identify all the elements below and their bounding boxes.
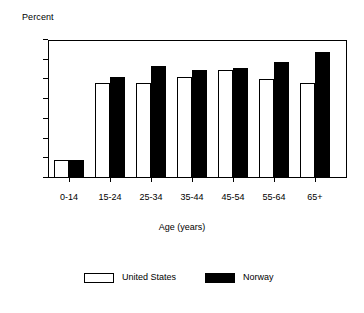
bar-norway-15-24	[110, 77, 125, 178]
bar-norway-25-34	[151, 66, 166, 178]
x-tick-label: 65+	[307, 192, 322, 203]
x-axis-title: Age (years)	[0, 222, 364, 233]
bar-norway-35-44	[192, 70, 207, 178]
bar-norway-65plus	[315, 52, 330, 178]
legend-entry-united-states: United States	[84, 272, 176, 283]
x-tick-mark	[151, 178, 152, 182]
chart-legend: United States Norway	[0, 272, 364, 292]
x-tick-label: 35-44	[180, 192, 203, 203]
legend-label-norway: Norway	[243, 272, 274, 283]
x-tick-label: 25-34	[139, 192, 162, 203]
x-tick-mark	[110, 178, 111, 182]
bar-norway-0-14	[69, 160, 84, 178]
x-tick-mark	[69, 178, 70, 182]
x-tick-mark	[192, 178, 193, 182]
x-tick-label: 15-24	[98, 192, 121, 203]
x-tick-mark	[233, 178, 234, 182]
bar-united-states-45-54	[218, 70, 233, 178]
legend-entry-norway: Norway	[205, 272, 274, 283]
bar-united-states-25-34	[136, 83, 151, 178]
bar-united-states-0-14	[54, 160, 69, 178]
bar-united-states-65plus	[300, 83, 315, 178]
x-tick-mark	[274, 178, 275, 182]
bar-united-states-55-64	[259, 79, 274, 178]
legend-label-united-states: United States	[122, 272, 176, 283]
bar-chart-figure: Percent 0 10 20 30 40 50 60	[0, 0, 364, 313]
bar-united-states-15-24	[95, 83, 110, 178]
legend-swatch-united-states-icon	[84, 273, 114, 283]
legend-swatch-norway-icon	[205, 273, 235, 283]
bars-layer	[48, 40, 347, 178]
x-axis-ticks: 0-14 15-24 25-34 35-44 45-54 55-64 65+	[48, 178, 347, 208]
bar-united-states-35-44	[177, 77, 192, 178]
y-axis-title: Percent	[22, 12, 54, 23]
bar-norway-55-64	[274, 62, 289, 178]
x-tick-label: 0-14	[60, 192, 78, 203]
bar-norway-45-54	[233, 68, 248, 178]
x-tick-mark	[315, 178, 316, 182]
x-tick-label: 45-54	[221, 192, 244, 203]
x-tick-label: 55-64	[262, 192, 285, 203]
